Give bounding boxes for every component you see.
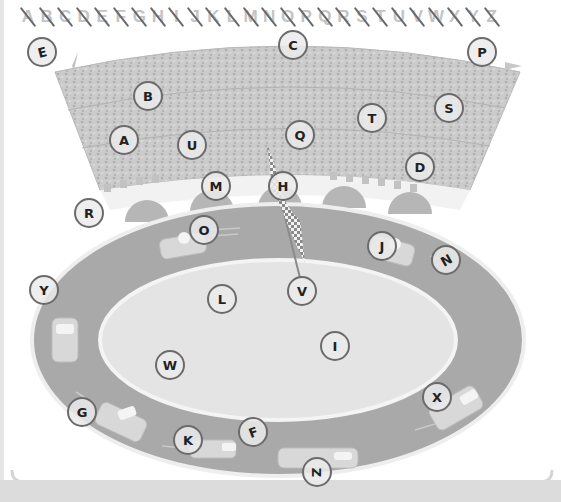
alphabet-letter-l: L: [224, 7, 240, 27]
hidden-letter-text: M: [210, 179, 223, 194]
alphabet-letter-h: H: [150, 7, 166, 27]
hidden-letter-text: W: [163, 358, 177, 373]
hidden-letter-text: P: [477, 45, 487, 60]
hidden-letter-l[interactable]: L: [207, 284, 237, 314]
hidden-letter-text: K: [183, 433, 193, 448]
page-bottom-band: [0, 480, 561, 502]
alphabet-letter-f: F: [113, 7, 129, 27]
hidden-letter-text: T: [368, 111, 377, 126]
hidden-letter-text: U: [187, 138, 198, 153]
hidden-letter-w[interactable]: W: [155, 350, 185, 380]
alphabet-letter-e: E: [94, 7, 110, 27]
alphabet-letter-y: Y: [465, 7, 481, 27]
hidden-letter-j[interactable]: J: [367, 231, 397, 261]
hidden-letter-text: D: [415, 160, 426, 175]
hidden-letter-text: L: [218, 292, 226, 307]
hidden-letter-a[interactable]: A: [109, 125, 139, 155]
hidden-letter-s[interactable]: S: [434, 93, 464, 123]
alphabet-letter-q: Q: [317, 7, 333, 27]
alphabet-letter-p: P: [298, 7, 314, 27]
alphabet-letter-w: W: [428, 7, 444, 27]
hidden-letter-e[interactable]: E: [27, 37, 57, 67]
hidden-letter-text: Z: [310, 467, 325, 476]
alphabet-letter-s: S: [354, 7, 370, 27]
hidden-letter-m[interactable]: M: [201, 171, 231, 201]
hidden-letter-h[interactable]: H: [268, 171, 298, 201]
alphabet-letter-j: J: [187, 7, 203, 27]
hidden-letter-c[interactable]: C: [278, 30, 308, 60]
hidden-letter-n[interactable]: N: [431, 245, 461, 275]
hidden-letter-text: F: [246, 423, 259, 440]
hidden-letter-u[interactable]: U: [177, 130, 207, 160]
hidden-letter-i[interactable]: I: [320, 331, 350, 361]
alphabet-letter-z: Z: [484, 7, 500, 27]
alphabet-letter-u: U: [391, 7, 407, 27]
hidden-letter-text: I: [333, 339, 338, 354]
alphabet-letter-i: I: [168, 7, 184, 27]
hidden-letter-f[interactable]: F: [238, 417, 268, 447]
hidden-letter-p[interactable]: P: [467, 37, 497, 67]
alphabet-letter-o: O: [280, 7, 296, 27]
hidden-letter-x[interactable]: X: [422, 382, 452, 412]
stadium-illustration: [0, 30, 561, 502]
hidden-letter-t[interactable]: T: [357, 103, 387, 133]
hidden-letter-g[interactable]: G: [67, 397, 97, 427]
alphabet-letter-x: X: [447, 7, 463, 27]
hidden-letter-text: E: [36, 44, 48, 61]
hidden-letter-r[interactable]: R: [74, 198, 104, 228]
hidden-letter-text: O: [198, 223, 209, 238]
infield: [100, 260, 456, 420]
hidden-letter-o[interactable]: O: [189, 215, 219, 245]
alphabet-letter-v: V: [409, 7, 425, 27]
hidden-letter-text: Y: [39, 283, 48, 298]
alphabet-letter-n: N: [261, 7, 277, 27]
hidden-letter-k[interactable]: K: [173, 425, 203, 455]
hidden-letter-text: C: [288, 38, 298, 53]
hidden-letter-text: G: [77, 405, 88, 420]
alphabet-letter-m: M: [243, 7, 259, 27]
alphabet-letter-a: A: [20, 7, 36, 27]
hidden-letter-v[interactable]: V: [287, 276, 317, 306]
alphabet-letter-b: B: [39, 7, 55, 27]
alphabet-letter-k: K: [205, 7, 221, 27]
hidden-letter-text: R: [84, 206, 94, 221]
alphabet-letter-d: D: [76, 7, 92, 27]
hidden-letter-b[interactable]: B: [133, 81, 163, 111]
hidden-letter-d[interactable]: D: [405, 152, 435, 182]
hidden-letter-text: N: [438, 251, 455, 269]
hidden-letter-z[interactable]: Z: [302, 457, 332, 487]
hidden-letter-text: B: [143, 89, 153, 104]
hidden-letter-text: A: [119, 133, 129, 148]
alphabet-letter-c: C: [57, 7, 73, 27]
hidden-letter-text: S: [444, 101, 453, 116]
alphabet-letter-g: G: [131, 7, 147, 27]
alphabet-letter-r: R: [335, 7, 351, 27]
race-track-stadium-scene: [0, 30, 561, 502]
hidden-letter-y[interactable]: Y: [29, 275, 59, 305]
hidden-letter-text: Q: [294, 128, 305, 143]
hidden-letter-q[interactable]: Q: [285, 120, 315, 150]
hidden-letter-text: J: [380, 239, 385, 254]
crossed-out-alphabet-strip: ABCDEFGHIJKLMNOPQRSTUVWXYZ: [20, 6, 500, 28]
alphabet-letter-t: T: [372, 7, 388, 27]
hidden-letter-text: V: [297, 284, 307, 299]
hidden-letter-text: X: [432, 390, 442, 405]
hidden-letter-text: H: [278, 179, 289, 194]
